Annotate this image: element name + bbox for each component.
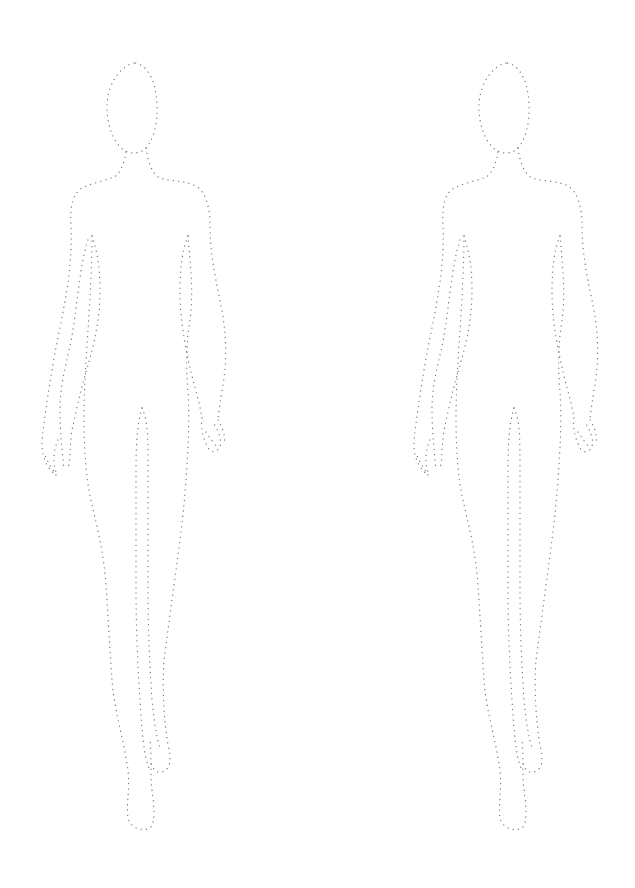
croquis-canvas (0, 0, 635, 888)
croquis-right (414, 63, 598, 830)
croquis-left (42, 63, 226, 830)
